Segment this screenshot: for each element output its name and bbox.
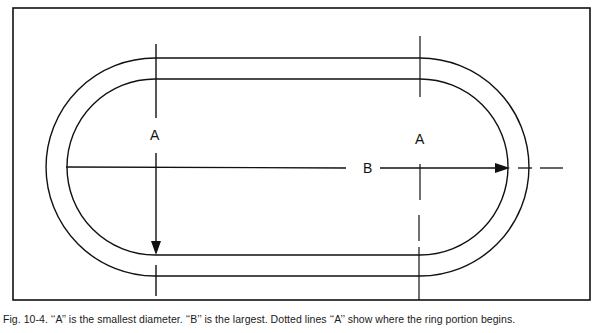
- label-b: B: [363, 160, 372, 176]
- label-a-right: A: [415, 131, 424, 147]
- left-dashed-line-a: [151, 44, 161, 296]
- b-dimension-line: [66, 163, 563, 173]
- label-a-left: A: [150, 127, 159, 143]
- figure-border: [13, 8, 590, 300]
- oval-ring-diagram: [0, 0, 602, 333]
- figure-caption: Fig. 10-4. ‘‘A’’ is the smallest diamete…: [3, 313, 515, 325]
- a-arrowhead-icon: [151, 241, 161, 255]
